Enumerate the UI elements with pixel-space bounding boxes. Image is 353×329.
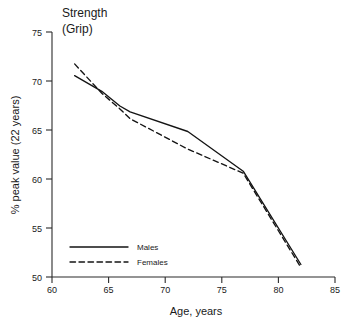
x-tick-label-75: 75 bbox=[217, 285, 227, 295]
x-tick-label-60: 60 bbox=[47, 285, 57, 295]
x-axis-tick-labels: 60 65 70 75 80 85 bbox=[47, 285, 340, 295]
y-axis-ticks bbox=[46, 32, 52, 277]
x-tick-label-85: 85 bbox=[330, 285, 340, 295]
chart-title-line-1: Strength bbox=[62, 6, 107, 20]
legend-label-males: Males bbox=[137, 243, 158, 252]
y-axis-tick-labels: 75 70 65 60 55 50 bbox=[32, 28, 42, 283]
y-axis-title: % peak value (22 years) bbox=[9, 96, 21, 215]
x-axis-ticks bbox=[52, 277, 335, 283]
strength-grip-line-chart: Strength (Grip) 75 70 65 60 55 50 bbox=[0, 0, 353, 329]
y-tick-label-60: 60 bbox=[32, 175, 42, 185]
y-tick-label-55: 55 bbox=[32, 224, 42, 234]
x-axis-title: Age, years bbox=[170, 305, 223, 317]
chart-legend: Males Females bbox=[70, 243, 168, 267]
series-line-females bbox=[75, 64, 301, 268]
y-tick-label-75: 75 bbox=[32, 28, 42, 38]
chart-title-line-2: (Grip) bbox=[62, 22, 93, 36]
x-tick-label-65: 65 bbox=[104, 285, 114, 295]
y-tick-label-70: 70 bbox=[32, 77, 42, 87]
x-tick-label-80: 80 bbox=[273, 285, 283, 295]
y-tick-label-65: 65 bbox=[32, 126, 42, 136]
x-tick-label-70: 70 bbox=[160, 285, 170, 295]
legend-label-females: Females bbox=[137, 258, 168, 267]
y-tick-label-50: 50 bbox=[32, 273, 42, 283]
series-line-males bbox=[75, 76, 301, 265]
chart-figure: Strength (Grip) 75 70 65 60 55 50 bbox=[0, 0, 353, 329]
